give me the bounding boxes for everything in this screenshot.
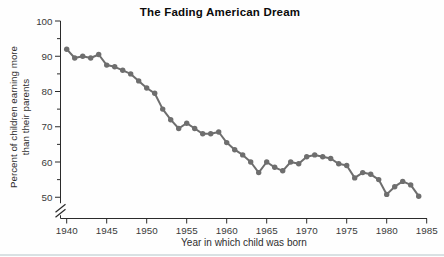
bottom-rule <box>0 254 444 256</box>
data-point-1982 <box>400 179 405 184</box>
data-point-1941 <box>72 55 77 60</box>
data-point-1954 <box>176 126 181 131</box>
y-axis-label-line2: than their parents <box>20 16 32 218</box>
y-tick-label-80: 80 <box>42 86 53 97</box>
data-point-1956 <box>192 126 197 131</box>
data-point-1979 <box>376 177 381 182</box>
data-point-1981 <box>392 184 397 189</box>
data-point-1963 <box>248 159 253 164</box>
x-tick-label-1950: 1950 <box>136 225 158 236</box>
data-point-1978 <box>368 172 373 177</box>
y-tick-label-90: 90 <box>42 51 53 62</box>
y-tick-label-70: 70 <box>42 121 53 132</box>
y-axis-label: Percent of children earning more than th… <box>8 16 34 218</box>
data-point-1970 <box>304 154 309 159</box>
data-point-1948 <box>128 71 133 76</box>
data-point-1958 <box>208 131 213 136</box>
data-point-1960 <box>224 140 229 145</box>
x-tick-label-1970: 1970 <box>296 225 318 236</box>
y-tick-label-50: 50 <box>42 192 53 203</box>
data-point-1951 <box>152 91 157 96</box>
x-tick-label-1945: 1945 <box>96 225 118 236</box>
x-tick-label-1965: 1965 <box>256 225 278 236</box>
data-point-1964 <box>256 170 261 175</box>
data-point-1940 <box>64 47 69 52</box>
data-point-1972 <box>320 154 325 159</box>
data-point-1968 <box>288 159 293 164</box>
data-point-1962 <box>240 152 245 157</box>
data-point-1947 <box>120 68 125 73</box>
y-tick-label-60: 60 <box>42 157 53 168</box>
data-point-1969 <box>296 161 301 166</box>
series-line <box>67 49 419 196</box>
data-point-1966 <box>272 165 277 170</box>
chart-title: The Fading American Dream <box>0 6 440 18</box>
data-point-1946 <box>112 64 117 69</box>
data-point-1942 <box>80 54 85 59</box>
data-point-1973 <box>328 156 333 161</box>
chart: The Fading American Dream Percent of chi… <box>0 0 444 257</box>
x-tick-label-1975: 1975 <box>336 225 358 236</box>
data-point-1977 <box>360 170 365 175</box>
data-point-1952 <box>160 106 165 111</box>
x-tick-label-1955: 1955 <box>176 225 198 236</box>
data-point-1975 <box>344 163 349 168</box>
data-point-1955 <box>184 121 189 126</box>
data-point-1965 <box>264 159 269 164</box>
data-point-1957 <box>200 131 205 136</box>
data-point-1967 <box>280 168 285 173</box>
data-point-1944 <box>96 52 101 57</box>
data-point-1953 <box>168 117 173 122</box>
data-point-1983 <box>408 182 413 187</box>
y-axis-label-line1: Percent of children earning more <box>8 16 20 218</box>
x-tick-label-1960: 1960 <box>216 225 238 236</box>
data-point-1980 <box>384 192 389 197</box>
data-point-1959 <box>216 129 221 134</box>
data-point-1974 <box>336 161 341 166</box>
data-point-1976 <box>352 175 357 180</box>
data-point-1971 <box>312 152 317 157</box>
data-point-1949 <box>136 78 141 83</box>
x-tick-label-1940: 1940 <box>56 225 78 236</box>
data-point-1945 <box>104 62 109 67</box>
x-axis-label: Year in which child was born <box>60 237 428 248</box>
data-point-1950 <box>144 85 149 90</box>
data-point-1943 <box>88 55 93 60</box>
plot-area: 1009080706050194019451950195519601965197… <box>0 0 444 257</box>
x-tick-label-1985: 1985 <box>416 225 438 236</box>
data-point-1961 <box>232 147 237 152</box>
x-tick-label-1980: 1980 <box>376 225 398 236</box>
data-point-1984 <box>416 194 421 199</box>
